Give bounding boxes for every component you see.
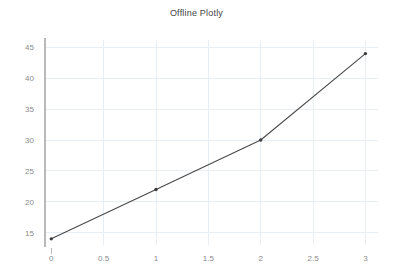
x-tick-label: 1 (154, 254, 159, 263)
y-tick-label: 45 (25, 43, 34, 52)
x-tick-label: 0.5 (98, 254, 110, 263)
plotly-chart-container: Offline Plotly 15202530354045 00.511.522… (0, 0, 393, 275)
x-tick-label: 0 (49, 254, 54, 263)
y-tick-label: 15 (25, 229, 34, 238)
x-gridlines (104, 40, 366, 245)
x-tick-labels: 00.511.522.53 (49, 254, 368, 263)
y-tick-label: 20 (25, 198, 34, 207)
y-gridlines (45, 47, 378, 232)
x-tick-label: 1.5 (203, 254, 215, 263)
x-tick-label: 3 (363, 254, 368, 263)
y-tick-label: 40 (25, 74, 34, 83)
data-point-marker[interactable] (50, 237, 53, 240)
chart-plot-area: 15202530354045 00.511.522.53 (0, 0, 393, 275)
y-tick-labels: 15202530354045 (25, 43, 34, 237)
x-tick-label: 2 (258, 254, 263, 263)
y-tick-label: 25 (25, 167, 34, 176)
y-tick-label: 35 (25, 105, 34, 114)
y-tick-label: 30 (25, 136, 34, 145)
data-point-marker[interactable] (259, 138, 262, 141)
data-point-marker[interactable] (364, 52, 367, 55)
data-point-marker[interactable] (154, 188, 157, 191)
x-tick-label: 2.5 (308, 254, 320, 263)
